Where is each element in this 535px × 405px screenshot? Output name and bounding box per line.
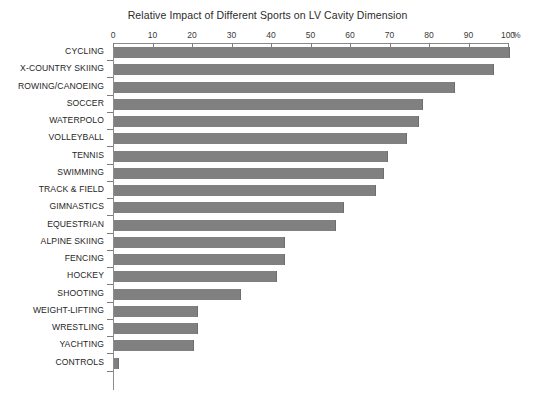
x-axis-unit-label: %	[513, 30, 521, 40]
category-label: TRACK & FIELD	[0, 184, 104, 194]
y-axis-tick	[107, 129, 113, 130]
y-axis-tick	[107, 336, 113, 337]
y-axis-tick	[107, 60, 113, 61]
bar	[114, 220, 336, 231]
x-axis-tick-label: 20	[187, 30, 196, 40]
category-label: VOLLEYBALL	[0, 132, 104, 142]
category-label: FENCING	[0, 253, 104, 263]
x-axis-tick-label: 50	[306, 30, 315, 40]
bar	[114, 99, 423, 110]
bar	[114, 358, 119, 369]
category-label: GIMNASTICS	[0, 201, 104, 211]
category-label: WRESTLING	[0, 322, 104, 332]
bar	[114, 202, 344, 213]
category-label: X-COUNTRY SKIING	[0, 63, 104, 73]
bar	[114, 133, 407, 144]
bar	[114, 271, 277, 282]
category-label: YACHTING	[0, 339, 104, 349]
bar	[114, 151, 388, 162]
y-axis-tick	[107, 233, 113, 234]
bar	[114, 64, 494, 75]
y-axis-line	[113, 44, 114, 390]
bar	[114, 323, 198, 334]
bar	[114, 289, 241, 300]
y-axis-tick	[107, 95, 113, 96]
y-axis-tick	[107, 181, 113, 182]
y-axis-tick	[107, 302, 113, 303]
category-label: HOCKEY	[0, 270, 104, 280]
category-label: EQUESTRIAN	[0, 219, 104, 229]
bar	[114, 185, 376, 196]
bar	[114, 116, 419, 127]
bar	[114, 306, 198, 317]
category-label: SOCCER	[0, 98, 104, 108]
y-axis-tick	[107, 250, 113, 251]
x-axis-tick-label: 40	[266, 30, 275, 40]
y-axis-tick	[107, 284, 113, 285]
x-axis-tick-label: 30	[227, 30, 236, 40]
x-axis-tick-label: 0	[111, 30, 116, 40]
y-axis-tick	[107, 146, 113, 147]
bar	[114, 254, 285, 265]
category-label: WEIGHT-LIFTING	[0, 305, 104, 315]
x-axis-tick-label: 70	[385, 30, 394, 40]
category-label: ALPINE SKIING	[0, 236, 104, 246]
bar	[114, 237, 285, 248]
category-label: CYCLING	[0, 46, 104, 56]
y-axis-tick	[107, 77, 113, 78]
category-label: SWIMMING	[0, 167, 104, 177]
x-axis-tick-label: 80	[424, 30, 433, 40]
category-label: ROWING/CANOEING	[0, 81, 104, 91]
y-axis-tick	[107, 319, 113, 320]
x-axis-tick-label: 60	[345, 30, 354, 40]
x-axis-tick-label: 10	[148, 30, 157, 40]
figure-bar-chart: Relative Impact of Different Sports on L…	[0, 0, 535, 405]
x-axis-tick-label: 90	[464, 30, 473, 40]
category-label: WATERPOLO	[0, 115, 104, 125]
category-label: CONTROLS	[0, 357, 104, 367]
y-axis-tick	[107, 267, 113, 268]
y-axis-tick	[107, 371, 113, 372]
y-axis-tick	[107, 112, 113, 113]
category-label: TENNIS	[0, 150, 104, 160]
bar	[114, 168, 384, 179]
y-axis-tick	[107, 353, 113, 354]
category-label: SHOOTING	[0, 288, 104, 298]
bar	[114, 340, 194, 351]
y-axis-tick	[107, 198, 113, 199]
page-title: Relative Impact of Different Sports on L…	[0, 9, 535, 21]
y-axis-tick	[107, 215, 113, 216]
y-axis-tick	[107, 164, 113, 165]
bar	[114, 47, 510, 58]
bar	[114, 82, 455, 93]
